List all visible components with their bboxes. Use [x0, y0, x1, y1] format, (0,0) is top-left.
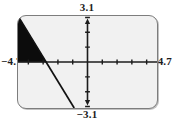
- plot-area: [18, 16, 157, 108]
- axes-group: [18, 19, 157, 106]
- calculator-screen: [17, 15, 158, 109]
- graph-plot: [18, 16, 157, 108]
- window-label-ymin: −3.1: [0, 109, 174, 120]
- calculator-graph-figure: 3.1 −4.7 4.7 −3.1: [0, 0, 174, 123]
- y-axis-arrow-bottom: [85, 100, 90, 106]
- window-label-xmax: 4.7: [158, 56, 172, 67]
- y-axis-arrow: [85, 19, 90, 25]
- window-label-ymax: 3.1: [0, 2, 174, 13]
